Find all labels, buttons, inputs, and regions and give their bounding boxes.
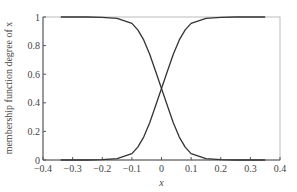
series-line <box>61 17 265 160</box>
y-tick-label: 0.6 <box>28 69 41 80</box>
data-series <box>61 17 265 160</box>
series-line <box>61 17 265 160</box>
x-tick-label: 0.3 <box>244 163 257 174</box>
x-tick-label: −0.2 <box>93 163 111 174</box>
x-tick-label: 0.1 <box>185 163 198 174</box>
x-tick-label: −0.3 <box>64 163 82 174</box>
y-axis-label: membership function degree of x <box>3 22 14 155</box>
membership-function-chart: −0.4−0.3−0.2−0.100.10.20.30.4 00.20.40.6… <box>0 0 297 192</box>
y-tick-label: 0 <box>35 155 40 166</box>
y-tick-label: 0.4 <box>28 97 41 108</box>
x-tick-label: 0.4 <box>274 163 287 174</box>
x-tick-label: −0.1 <box>123 163 141 174</box>
y-tick-label: 0.2 <box>28 126 41 137</box>
y-tick-label: 1 <box>35 12 40 23</box>
x-axis-label: x <box>158 177 164 188</box>
y-tick-label: 0.8 <box>28 40 41 51</box>
x-tick-label: 0.2 <box>215 163 228 174</box>
x-tick-label: 0 <box>159 163 164 174</box>
